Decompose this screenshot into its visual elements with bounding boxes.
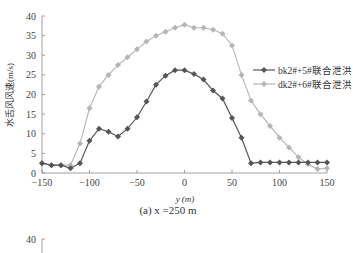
y-tick-label: 30 — [26, 50, 36, 61]
lower-panel-ytick: 40 — [26, 234, 36, 245]
data-point-marker — [172, 67, 178, 73]
y-tick-label: 20 — [26, 89, 36, 100]
data-point-marker — [39, 160, 45, 166]
y-tick-label: 25 — [26, 69, 36, 80]
data-point-marker — [201, 25, 207, 31]
data-point-marker — [49, 162, 55, 168]
data-point-marker — [172, 25, 178, 31]
x-tick-label: −150 — [32, 177, 53, 188]
data-point-marker — [239, 72, 245, 78]
series-line — [42, 25, 327, 169]
data-point-marker — [296, 159, 302, 165]
data-point-marker — [324, 165, 330, 171]
data-point-marker — [182, 22, 188, 28]
y-axis-title: 水舌风风速(m/s) — [4, 63, 15, 127]
data-point-marker — [106, 129, 112, 135]
data-point-marker — [163, 29, 169, 35]
x-tick-label: 0 — [182, 177, 187, 188]
data-point-marker — [258, 159, 264, 165]
data-point-marker — [68, 165, 74, 171]
data-point-marker — [229, 115, 235, 121]
y-tick-label: 15 — [26, 109, 36, 120]
data-point-marker — [182, 67, 188, 73]
data-point-marker — [77, 160, 83, 166]
legend-item: dk2#+6#联合泄洪 — [253, 79, 352, 90]
data-point-marker — [315, 166, 321, 172]
x-axis-title: y (m) — [175, 194, 195, 204]
series-layer — [39, 22, 330, 172]
data-point-marker — [191, 25, 197, 31]
data-point-marker — [239, 135, 245, 141]
data-point-marker — [248, 160, 254, 166]
data-point-marker — [315, 159, 321, 165]
data-point-marker — [261, 67, 267, 73]
y-tick-label: 0 — [31, 168, 36, 179]
data-point-marker — [261, 81, 267, 87]
y-tick-label: 35 — [26, 30, 36, 41]
x-tick-label: −100 — [79, 177, 100, 188]
x-tick-label: −50 — [129, 177, 145, 188]
data-point-marker — [58, 162, 64, 168]
data-point-marker — [267, 159, 273, 165]
data-point-marker — [277, 159, 283, 165]
data-point-marker — [77, 141, 83, 147]
legend: bk2#+5#联合泄洪dk2#+6#联合泄洪 — [253, 65, 352, 90]
x-tick-label: 100 — [272, 177, 287, 188]
data-point-marker — [144, 99, 150, 105]
data-point-marker — [286, 159, 292, 165]
data-point-marker — [324, 159, 330, 165]
legend-item: bk2#+5#联合泄洪 — [253, 65, 352, 76]
data-point-marker — [153, 33, 159, 39]
y-tick-label: 40 — [26, 11, 36, 22]
wind-speed-chart: −150−100−500501001500510152025303540 bk2… — [0, 0, 353, 253]
legend-label: bk2#+5#联合泄洪 — [278, 65, 352, 76]
data-point-marker — [87, 105, 93, 111]
y-tick-label: 5 — [31, 148, 36, 159]
x-tick-label: 150 — [320, 177, 335, 188]
y-tick-label: 10 — [26, 128, 36, 139]
data-point-marker — [210, 27, 216, 33]
data-point-marker — [191, 71, 197, 77]
legend-label: dk2#+6#联合泄洪 — [278, 79, 352, 90]
x-tick-label: 50 — [227, 177, 237, 188]
series-dk2-6 — [39, 22, 330, 172]
chart-caption: (a) x =250 m — [139, 204, 197, 217]
